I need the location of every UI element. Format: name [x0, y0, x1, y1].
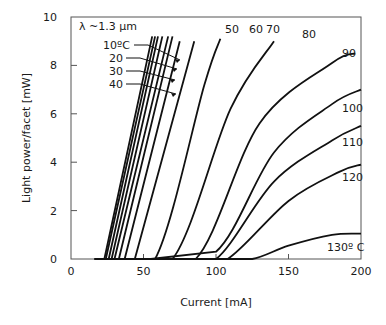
wavelength-annotation: λ ~1.3 µm	[79, 20, 137, 33]
series-label: 90	[342, 47, 356, 60]
y-tick-label: 6	[50, 108, 57, 121]
x-axis-label: Current [mA]	[180, 296, 252, 309]
axis-ticks: 0501001502000246810	[43, 11, 372, 278]
series-label: 100	[342, 102, 363, 115]
y-axis-label: Light power/facet [mW]	[20, 73, 33, 203]
x-tick-label: 0	[68, 265, 75, 278]
y-tick-label: 4	[50, 156, 57, 169]
series-label: 110	[342, 136, 363, 149]
series-labels: 10ºC2030405060708090100110120130º C	[103, 23, 365, 254]
x-tick-label: 150	[278, 265, 299, 278]
y-tick-label: 10	[43, 11, 57, 24]
series-label: 50	[225, 23, 239, 36]
data-series	[94, 36, 361, 259]
x-tick-label: 50	[137, 265, 151, 278]
series-label: 40	[109, 78, 123, 91]
light-current-chart: 0501001502000246810 10ºC2030405060708090…	[0, 0, 386, 325]
y-tick-label: 0	[50, 253, 57, 266]
series-label: 70	[266, 23, 280, 36]
series-label: 10ºC	[103, 39, 130, 52]
series-label: 30	[109, 65, 123, 78]
y-tick-label: 8	[50, 59, 57, 72]
x-tick-label: 100	[206, 265, 227, 278]
series-label: 20	[109, 52, 123, 65]
y-tick-label: 2	[50, 205, 57, 218]
series-label: 130º C	[327, 241, 365, 254]
x-tick-label: 200	[351, 265, 372, 278]
series-label: 60	[249, 23, 263, 36]
series-label: 120	[342, 171, 363, 184]
series-label: 80	[302, 28, 316, 41]
